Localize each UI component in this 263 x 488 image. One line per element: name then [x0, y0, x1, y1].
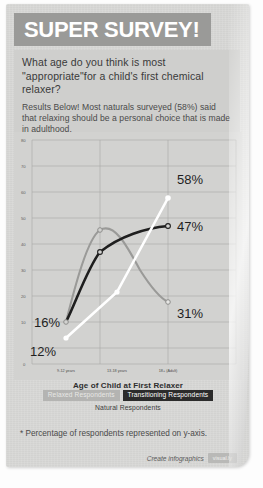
- page-title: SUPER SURVEY!: [24, 19, 199, 41]
- svg-text:80: 80: [21, 138, 26, 143]
- svg-text:20: 20: [21, 294, 26, 299]
- value-label-47: 47%: [177, 219, 203, 234]
- chart-container: 80 70 60 50 40 30 20 10 0: [14, 132, 242, 384]
- data-point-transitioning-2: [98, 250, 103, 255]
- svg-text:10: 10: [21, 320, 26, 325]
- survey-results-text: Results Below! Most naturals surveyed (5…: [22, 102, 232, 136]
- value-label-58: 58%: [177, 172, 203, 187]
- legend-item-relaxed: Relaxed Respondents: [43, 390, 120, 401]
- data-point-relaxed-1: [64, 320, 69, 325]
- value-label-16: 16%: [34, 315, 60, 330]
- attribution-text[interactable]: Create infographics: [147, 455, 204, 462]
- value-label-12: 12%: [30, 344, 56, 359]
- chart-legend: Relaxed Respondents Transitioning Respon…: [14, 390, 242, 411]
- data-point-natural-3: [165, 195, 171, 201]
- title-banner: SUPER SURVEY!: [14, 13, 211, 46]
- survey-line-chart: 80 70 60 50 40 30 20 10 0: [14, 132, 242, 380]
- value-label-31: 31%: [177, 306, 203, 321]
- svg-text:50: 50: [21, 216, 26, 221]
- x-axis-title: Age of Child at First Relaxer: [14, 381, 242, 390]
- poster-card: SUPER SURVEY! What age do you think is m…: [6, 4, 249, 467]
- footnote: * Percentage of respondents represented …: [20, 428, 230, 439]
- data-point-relaxed-3: [166, 300, 171, 305]
- attribution-badge[interactable]: visual.ly: [208, 453, 237, 463]
- x-tick-label-1: 13-18 years: [107, 369, 127, 373]
- svg-text:40: 40: [21, 242, 26, 247]
- survey-question: What age do you think is most "appropria…: [22, 56, 232, 97]
- svg-text:60: 60: [21, 190, 26, 195]
- x-tick-label-2: 18+ (Adult): [159, 369, 178, 373]
- intro-block: What age do you think is most "appropria…: [14, 50, 240, 142]
- svg-text:70: 70: [21, 164, 26, 169]
- data-point-transitioning-3: [166, 224, 171, 229]
- svg-text:30: 30: [21, 268, 26, 273]
- legend-item-natural: Natural Respondents: [14, 404, 242, 411]
- data-point-relaxed-2: [98, 228, 103, 233]
- legend-item-transitioning: Transitioning Respondents: [123, 390, 214, 401]
- chart-background: [14, 132, 242, 380]
- data-point-natural-2: [114, 289, 119, 294]
- infographic-poster: SUPER SURVEY! What age do you think is m…: [0, 0, 263, 488]
- x-tick-label-0: 9-12 years: [57, 369, 75, 373]
- data-point-natural-1: [63, 335, 68, 340]
- attribution: Create infographics visual.ly: [147, 453, 237, 463]
